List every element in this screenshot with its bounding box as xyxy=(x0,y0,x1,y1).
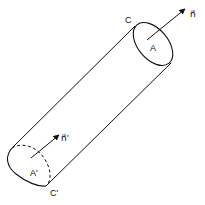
bottom-normal-arrow xyxy=(31,135,59,158)
label-n: n⃗ xyxy=(190,9,196,19)
bottom-end-cap-dashed xyxy=(12,145,50,184)
cylinder-diagram: C A n⃗ n⃗' A' C' xyxy=(0,0,205,205)
label-n-prime: n⃗' xyxy=(61,133,69,143)
label-A: A xyxy=(150,43,156,53)
label-C-prime: C' xyxy=(50,188,58,198)
cylinder-lower-edge xyxy=(46,63,171,186)
label-A-prime: A' xyxy=(30,168,38,178)
label-C: C xyxy=(125,15,132,25)
cylinder-upper-edge xyxy=(12,26,135,148)
bottom-end-cap-solid xyxy=(7,148,46,186)
